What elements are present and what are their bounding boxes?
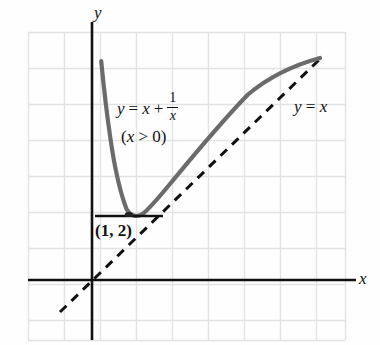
axes [28,22,356,340]
curve-equation-fraction: 1 x [167,91,178,124]
x-axis-label: x [359,270,367,287]
fraction-numerator: 1 [167,91,178,106]
curve-equation-lhs: y [117,100,125,117]
domain-relation: > [138,127,148,146]
curve-equation-plus: + [153,100,165,117]
minimum-point-marker [125,212,133,217]
domain-variable: x [127,127,135,146]
curve-equation-term1: x [142,100,150,117]
domain-bound: 0 [152,127,161,146]
asymptote-lhs: y [294,97,302,116]
fraction-denominator: x [168,109,178,124]
domain-condition-label: (x > 0) [121,128,166,145]
graph-plot [0,0,380,345]
asymptote-rhs: x [320,97,328,116]
y-axis-label: y [94,4,102,21]
curve-equation-equals: = [128,100,140,117]
domain-close-paren: ) [161,127,167,146]
curve-equation-label: y = x + 1 x [117,92,178,125]
minimum-point-label: (1, 2) [95,222,132,239]
asymptote-equation-label: y = x [294,98,327,115]
asymptote-equals: = [306,97,316,116]
asymptote-line-y-equals-x [60,57,322,312]
figure-canvas: y x y = x + 1 x (x > 0) y = x (1, 2) [0,0,380,345]
grid-lines [28,32,346,341]
